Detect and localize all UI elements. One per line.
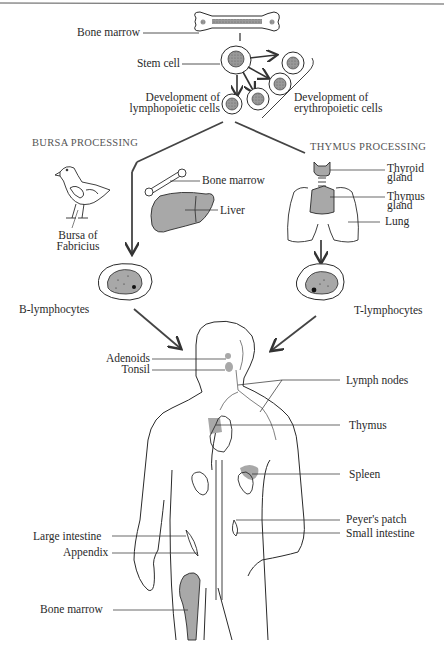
chicken-icon bbox=[55, 167, 110, 218]
label-tonsil: Tonsil bbox=[60, 364, 150, 375]
label-small-intestine: Small intestine bbox=[346, 528, 415, 539]
label-peyers-patch: Peyer's patch bbox=[346, 514, 407, 525]
label-thyroid-2: gland bbox=[387, 172, 413, 183]
label-bursa-2: Fabricius bbox=[48, 241, 108, 252]
label-lymph-nodes: Lymph nodes bbox=[346, 375, 408, 386]
lymphopoietic-cell-icon bbox=[222, 94, 242, 114]
label-stem-cell: Stem cell bbox=[120, 58, 180, 69]
label-thymus-gland-2: gland bbox=[387, 200, 413, 211]
label-bone-marrow-top: Bone marrow bbox=[60, 27, 140, 38]
bone-icon-top bbox=[195, 12, 280, 31]
label-liver: Liver bbox=[220, 205, 245, 216]
human-body-outline bbox=[134, 321, 304, 640]
t-lymphocyte-icon bbox=[296, 264, 344, 300]
bone-icon-bursa bbox=[145, 169, 186, 196]
label-bone-marrow-bursa: Bone marrow bbox=[202, 175, 265, 186]
label-thymus-body: Thymus bbox=[349, 420, 387, 431]
label-b-lymphocytes: B-lymphocytes bbox=[19, 304, 89, 315]
stem-cell-icon bbox=[221, 46, 251, 74]
organs bbox=[180, 353, 259, 640]
label-appendix: Appendix bbox=[63, 547, 108, 558]
immune-system-diagram bbox=[0, 0, 444, 672]
heading-bursa-processing: BURSA PROCESSING bbox=[32, 137, 138, 148]
label-bone-marrow-body: Bone marrow bbox=[40, 604, 103, 615]
label-lympho-dev-2: lymphopoietic cells bbox=[110, 103, 220, 114]
b-lymphocyte-icon bbox=[98, 264, 152, 300]
thyroid-thymus-lungs-icon bbox=[288, 162, 359, 242]
liver-icon bbox=[151, 192, 214, 232]
label-t-lymphocytes: T-lymphocytes bbox=[354, 305, 423, 316]
top-border bbox=[0, 3, 444, 4]
heading-thymus-processing: THYMUS PROCESSING bbox=[310, 141, 426, 152]
label-erythro-dev-2: erythropoietic cells bbox=[294, 103, 382, 114]
label-large-intestine: Large intestine bbox=[33, 531, 101, 542]
label-lung: Lung bbox=[385, 216, 409, 227]
label-spleen: Spleen bbox=[349, 469, 380, 480]
